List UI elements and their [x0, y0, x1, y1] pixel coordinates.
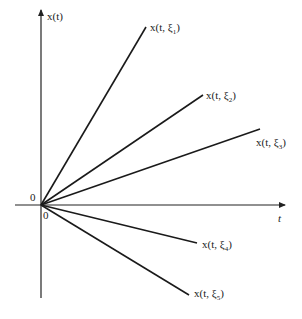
origin-label-left: 0 — [30, 191, 36, 203]
sample-paths-diagram: x(t) t 0 0 x(t, ξ1)x(t, ξ2)x(t, ξ3)x(t, … — [0, 0, 302, 319]
sample-path-line-5 — [41, 205, 189, 295]
sample-path-lines — [41, 27, 260, 295]
vertical-axis-label: x(t) — [47, 10, 63, 23]
origin-label-below: 0 — [43, 209, 49, 221]
sample-path-line-1 — [41, 27, 146, 205]
sample-path-label-4: x(t, ξ4) — [202, 238, 232, 253]
horizontal-axis-label: t — [278, 212, 282, 224]
sample-path-line-4 — [41, 205, 197, 243]
sample-path-label-3: x(t, ξ3) — [256, 136, 286, 151]
sample-path-line-2 — [41, 95, 203, 205]
sample-path-label-2: x(t, ξ2) — [206, 89, 236, 104]
sample-path-labels: x(t, ξ1)x(t, ξ2)x(t, ξ3)x(t, ξ4)x(t, ξ5) — [150, 21, 286, 302]
sample-path-label-5: x(t, ξ5) — [194, 287, 224, 302]
sample-path-line-3 — [41, 129, 260, 205]
sample-path-label-1: x(t, ξ1) — [150, 21, 180, 36]
